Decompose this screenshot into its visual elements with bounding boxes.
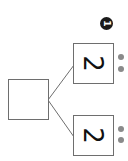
connector-line-bottom [48,100,74,137]
counter-dot [118,54,124,60]
counter-dot [118,66,124,72]
part-box-top: 2 [73,43,114,84]
connector-line-top [48,65,74,100]
part-value-top: 2 [74,44,113,83]
counter-dot [118,137,124,143]
question-number-badge: 1 [100,17,113,30]
counter-dot [118,126,124,132]
whole-value [9,80,48,119]
badge-label: 1 [102,20,111,26]
part-box-bottom: 2 [73,115,114,156]
part-value-bottom: 2 [74,116,113,155]
whole-box[interactable] [8,79,49,120]
